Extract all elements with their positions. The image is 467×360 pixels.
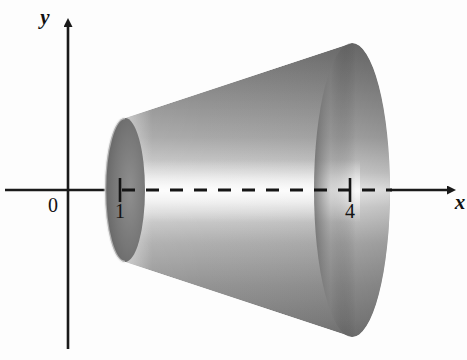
origin-label: 0 [48, 194, 58, 216]
y-axis-label: y [37, 5, 50, 29]
tick-label-1: 1 [115, 200, 125, 222]
solid-of-revolution-figure: y x 0 1 4 [0, 0, 467, 360]
x-axis-label: x [454, 190, 466, 214]
tick-label-4: 4 [345, 200, 355, 222]
figure-canvas: y x 0 1 4 [0, 0, 467, 360]
